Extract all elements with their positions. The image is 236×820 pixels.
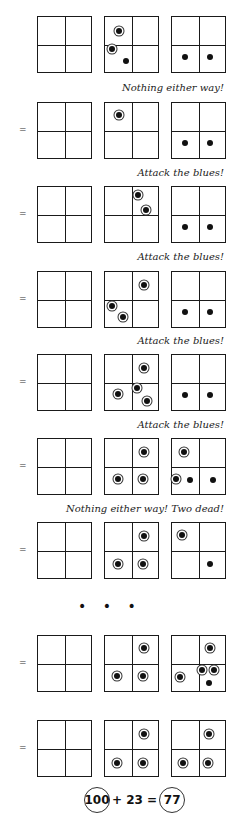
ellipsis: • • • (78, 598, 142, 614)
ringed-stone-icon (140, 561, 146, 567)
stone-icon (182, 309, 188, 315)
ringed-stone-icon (140, 476, 146, 482)
ringed-stone-icon (179, 532, 185, 538)
grid-horizontal-line (38, 45, 91, 46)
ringed-stone-icon (143, 207, 149, 213)
grid-horizontal-line (105, 131, 158, 132)
ringed-stone-icon (206, 731, 212, 737)
quadrant-grid (104, 271, 159, 328)
grid-horizontal-line (105, 215, 158, 216)
grid-horizontal-line (38, 551, 91, 552)
ringed-stone-icon (141, 449, 147, 455)
quadrant-grid (37, 522, 92, 579)
stone-icon (207, 392, 213, 398)
grid-horizontal-line (172, 551, 225, 552)
caption: Nothing either way! Two dead! (66, 503, 224, 514)
grid-horizontal-line (172, 215, 225, 216)
ringed-stone-icon (115, 476, 121, 482)
grid-horizontal-line (105, 383, 158, 384)
ringed-stone-icon (120, 314, 126, 320)
grid-horizontal-line (38, 749, 91, 750)
ringed-stone-icon (116, 112, 122, 118)
stone-icon (182, 224, 188, 230)
quadrant-grid (171, 16, 226, 73)
quadrant-grid (37, 102, 92, 159)
quadrant-grid (171, 720, 226, 777)
ringed-stone-icon (114, 673, 120, 679)
ringed-stone-icon (141, 533, 147, 539)
ringed-stone-icon (140, 673, 146, 679)
circled-number-left: 100 (84, 787, 110, 813)
quadrant-grid (37, 438, 92, 495)
stone-icon (206, 680, 212, 686)
grid-horizontal-line (105, 749, 158, 750)
ringed-stone-icon (141, 645, 147, 651)
caption: Attack the blues! (137, 167, 224, 178)
equals-sign: = (19, 293, 27, 303)
equals-sign: = (19, 657, 27, 667)
quadrant-grid (104, 186, 159, 243)
quadrant-grid (37, 720, 92, 777)
quadrant-grid (171, 102, 226, 159)
grid-horizontal-line (38, 383, 91, 384)
ringed-stone-icon (109, 303, 115, 309)
caption: Attack the blues! (137, 251, 224, 262)
grid-horizontal-line (38, 467, 91, 468)
stone-icon (210, 477, 216, 483)
ringed-stone-icon (135, 192, 141, 198)
ringed-stone-icon (114, 760, 120, 766)
ringed-stone-icon (180, 760, 186, 766)
stone-icon (207, 309, 213, 315)
ringed-stone-icon (144, 398, 150, 404)
grid-horizontal-line (38, 664, 91, 665)
ringed-stone-icon (177, 674, 183, 680)
ringed-stone-icon (134, 385, 140, 391)
ringed-stone-icon (141, 282, 147, 288)
grid-horizontal-line (172, 131, 225, 132)
ringed-stone-icon (205, 760, 211, 766)
stone-icon (182, 54, 188, 60)
grid-horizontal-line (172, 664, 225, 665)
stone-icon (182, 392, 188, 398)
equals-sign: = (19, 742, 27, 752)
ringed-stone-icon (207, 645, 213, 651)
grid-horizontal-line (38, 131, 91, 132)
quadrant-grid (37, 16, 92, 73)
quadrant-grid (104, 438, 159, 495)
ringed-stone-icon (141, 365, 147, 371)
equals-sign: = (19, 544, 27, 554)
quadrant-grid (171, 438, 226, 495)
quadrant-grid (171, 354, 226, 411)
grid-horizontal-line (172, 467, 225, 468)
quadrant-grid (104, 16, 159, 73)
quadrant-grid (37, 186, 92, 243)
grid-horizontal-line (172, 383, 225, 384)
equals-sign: = (19, 460, 27, 470)
quadrant-grid (37, 354, 92, 411)
quadrant-grid (171, 271, 226, 328)
stone-icon (182, 140, 188, 146)
equals-sign: = (19, 376, 27, 386)
stone-icon (187, 477, 193, 483)
ringed-stone-icon (141, 731, 147, 737)
grid-horizontal-line (172, 300, 225, 301)
grid-horizontal-line (38, 300, 91, 301)
quadrant-grid (171, 522, 226, 579)
stone-icon (207, 140, 213, 146)
score-formula: 100 + 23 = 77 (84, 787, 185, 813)
stone-icon (207, 561, 213, 567)
caption: Attack the blues! (137, 335, 224, 346)
caption: Nothing either way! (122, 82, 224, 93)
quadrant-grid (104, 635, 159, 692)
grid-horizontal-line (172, 45, 225, 46)
grid-horizontal-line (38, 215, 91, 216)
circled-number-right: 77 (159, 787, 185, 813)
quadrant-grid (171, 635, 226, 692)
ringed-stone-icon (181, 449, 187, 455)
ringed-stone-icon (115, 561, 121, 567)
equals-sign: = (19, 124, 27, 134)
ringed-stone-icon (211, 667, 217, 673)
quadrant-grid (104, 522, 159, 579)
ringed-stone-icon (115, 391, 121, 397)
grid-horizontal-line (105, 664, 158, 665)
